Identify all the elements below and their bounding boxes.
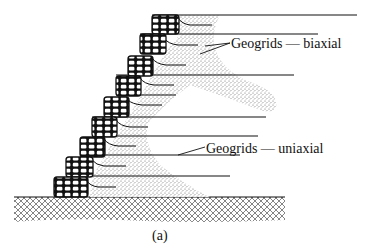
gabion-block-9 [54, 177, 88, 197]
gabion-block-2 [140, 34, 166, 54]
gabion-block-7 [80, 137, 105, 157]
subfigure-label: (a) [152, 229, 168, 243]
gabion-block-1 [152, 15, 179, 34]
uniaxial-geogrid-label: Geogrids — uniaxial [206, 142, 323, 156]
biaxial-geogrid-label: Geogrids — biaxial [231, 37, 341, 51]
gabion-block-8 [66, 157, 93, 177]
gabion-block-6 [92, 117, 117, 137]
gabion-block-5 [104, 97, 129, 117]
foundation-soil [14, 197, 285, 222]
gabion-block-4 [116, 76, 141, 96]
gabion-block-3 [128, 56, 153, 76]
uniaxial-leader [178, 147, 205, 155]
